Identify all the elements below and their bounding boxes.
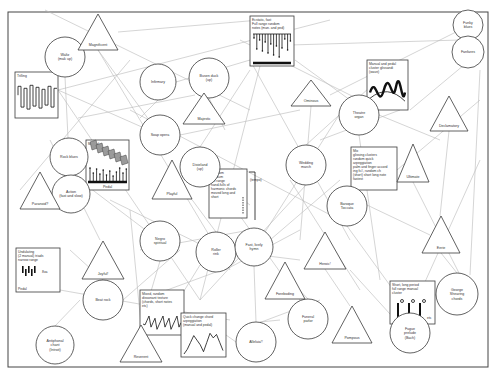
circle-label: parlor bbox=[303, 319, 313, 323]
circle-label: Action bbox=[66, 190, 76, 194]
circle-label: (up) bbox=[206, 78, 212, 82]
box-label: Trilling bbox=[17, 74, 27, 78]
pedal-label: Pedal bbox=[103, 185, 112, 189]
connector-line bbox=[440, 131, 449, 216]
circle-node-theatre-organ[interactable]: Theatreorgan bbox=[339, 95, 379, 135]
circle-node-busen-duck[interactable]: Busen duck(up) bbox=[189, 58, 229, 98]
note-head bbox=[284, 38, 286, 40]
circle-label: prelude bbox=[404, 331, 416, 335]
triangle-node-magnificent[interactable]: Magnificent bbox=[78, 14, 118, 50]
note-head bbox=[264, 41, 266, 43]
box-label: narrow range bbox=[18, 258, 38, 262]
box-ecstatic-fast[interactable]: Ecstatic, fastFull range randomnotes (ma… bbox=[250, 16, 294, 66]
circle-node-negro-spiritual[interactable]: Negrospiritual bbox=[140, 221, 180, 261]
note-head bbox=[89, 167, 91, 169]
circle-node-funky-blues[interactable]: Funkyblues bbox=[453, 10, 483, 40]
circle-label: Infirmary bbox=[151, 80, 165, 84]
connector-line bbox=[441, 253, 457, 273]
triangle-label: Eerie bbox=[437, 246, 445, 250]
circle-label: Wedding bbox=[299, 161, 313, 165]
note-head bbox=[116, 171, 118, 173]
triangle-node-ultimate[interactable]: Ultimate bbox=[397, 144, 429, 182]
circle-label: Baroque bbox=[340, 202, 354, 206]
circle-label: Beat rock bbox=[95, 298, 110, 302]
circle-label: Fast, lively bbox=[246, 243, 263, 247]
box-undulating[interactable]: Undulating(2 manual) triadsnarrow range8… bbox=[16, 248, 60, 292]
circle-label: march bbox=[301, 165, 311, 169]
circle-node-antiphonal-chant[interactable]: Antiphonalchant(Introit) bbox=[36, 326, 74, 364]
triangle-node-eerie[interactable]: Eerie bbox=[422, 216, 460, 253]
note-head bbox=[96, 168, 98, 170]
circle-node-dixieland[interactable]: Dixieland(up) bbox=[180, 147, 220, 187]
circle-node-soap-opera[interactable]: Soap opera bbox=[140, 115, 180, 155]
triad-block bbox=[34, 266, 36, 273]
box-label: (wave) bbox=[369, 70, 379, 74]
circle-label: rink bbox=[213, 252, 219, 256]
triangle-node-heroic[interactable]: Heroic! bbox=[304, 232, 346, 269]
circle-node-george-shearing-chords[interactable]: GeorgeShearingchords bbox=[436, 273, 478, 315]
circle-node-fugue-prelude[interactable]: Fugueprelude(Bach) bbox=[390, 313, 430, 353]
circle-node-infirmary[interactable]: Infirmary bbox=[140, 64, 176, 100]
octave-label: 8va bbox=[42, 270, 48, 274]
circle-label: Busen duck bbox=[200, 74, 219, 78]
connector-line bbox=[65, 77, 68, 138]
box-mixed-random-dissonant[interactable]: Mixed, randomdissonant texture(chords, s… bbox=[140, 290, 184, 335]
circle-node-baroque-toccata[interactable]: BaroqueToccata bbox=[327, 186, 367, 226]
triangle-node-foreboding[interactable]: Foreboding bbox=[265, 262, 305, 299]
circle-node-rock-blues[interactable]: Rock blues bbox=[50, 138, 88, 176]
connector-line bbox=[470, 70, 480, 275]
note-head bbox=[287, 49, 289, 51]
triangle-label: Ultimate bbox=[406, 175, 419, 179]
triangle-label: Pompous bbox=[344, 336, 359, 340]
circle-node-funeral-parlor[interactable]: Funeralparlor bbox=[288, 299, 328, 339]
circle-node-fanfares[interactable]: Fanfares bbox=[452, 36, 484, 68]
box-mix-glissing-clusters[interactable]: Mixglissing clustersrandom quickarpeggia… bbox=[351, 147, 397, 190]
note-head bbox=[276, 45, 278, 47]
circle-label: Alleluia!! bbox=[249, 340, 263, 344]
circle-node-fast-lively-hymn[interactable]: Fast, livelyhymn bbox=[235, 228, 273, 266]
note-head bbox=[270, 43, 272, 45]
circle-label: (Bach) bbox=[405, 336, 416, 340]
connector-line bbox=[420, 160, 480, 293]
triangle-label: Ominous bbox=[304, 99, 319, 103]
circle-node-wedding-march[interactable]: Weddingmarch bbox=[286, 145, 326, 185]
triangle-node-pompous[interactable]: Pompous bbox=[332, 306, 372, 343]
box-label: short bbox=[211, 195, 219, 199]
triangle-label: Majestic bbox=[197, 117, 210, 121]
circle-label: Roller bbox=[211, 248, 221, 252]
triangle-node-declamatory[interactable]: Declamatory bbox=[430, 96, 468, 131]
circle-label: Shearing bbox=[450, 292, 464, 296]
note-head bbox=[109, 170, 111, 172]
circle-label: (Introit) bbox=[49, 348, 60, 352]
triangle-label: Declamatory bbox=[439, 124, 459, 128]
pedal-label: Pedal bbox=[18, 287, 27, 291]
box-quick-change-chord[interactable]: Quick change chordarpeggiation(manual an… bbox=[181, 313, 226, 357]
triad-block bbox=[28, 266, 30, 273]
circle-node-alleluia[interactable]: Alleluia!! bbox=[236, 322, 276, 362]
note-head bbox=[281, 47, 283, 49]
triangle-label: Magnificent bbox=[89, 43, 107, 47]
circle-label: organ bbox=[354, 115, 363, 119]
triangle-node-majestic[interactable]: Majestic bbox=[183, 93, 225, 124]
triad-block bbox=[22, 266, 24, 273]
circle-node-waltz[interactable]: Waltz(mak up) bbox=[45, 37, 85, 77]
circle-label: chant bbox=[51, 343, 60, 347]
box-label: notes (man. and ped) bbox=[252, 26, 284, 30]
triangle-node-joyful[interactable]: Joyful! bbox=[82, 241, 124, 279]
note-head bbox=[290, 40, 292, 42]
connector-line bbox=[55, 300, 80, 326]
note-head bbox=[273, 54, 275, 56]
note-head bbox=[253, 37, 255, 39]
circle-label: blues bbox=[464, 25, 473, 29]
note-head bbox=[119, 167, 121, 169]
note-head bbox=[256, 48, 258, 50]
box-trilling[interactable]: Trilling bbox=[15, 72, 58, 118]
circle-label: George bbox=[451, 288, 463, 292]
circle-label: hymn bbox=[250, 247, 259, 251]
circle-label: (mak up) bbox=[58, 57, 72, 61]
triangle-node-ominous[interactable]: Ominous bbox=[291, 80, 331, 106]
circle-label: spiritual bbox=[154, 241, 167, 245]
circle-node-roller-rink[interactable]: Rollerrink bbox=[196, 232, 236, 272]
box-manual-pedal-arpeggio[interactable]: ManualPedal bbox=[86, 140, 129, 190]
circle-node-beat-rock[interactable]: Beat rock bbox=[83, 280, 123, 320]
